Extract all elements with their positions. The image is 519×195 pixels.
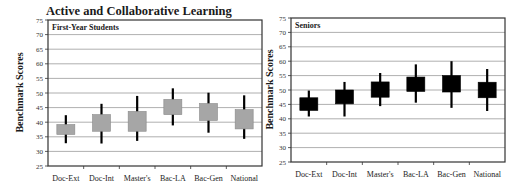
- box-bac-la: [407, 77, 425, 91]
- y-tick-label: 65: [279, 43, 287, 51]
- x-tick-label: Doc-Int: [332, 170, 358, 179]
- box-bac-gen: [443, 76, 461, 92]
- x-tick-label: Bac-Gen: [437, 170, 465, 179]
- box-doc-int: [336, 90, 354, 104]
- x-tick-label: Bac-LA: [403, 170, 429, 179]
- y-tick-label: 25: [279, 159, 287, 167]
- y-tick-label: 35: [279, 130, 287, 138]
- y-tick-label: 75: [279, 15, 287, 23]
- y-tick-label: 50: [279, 87, 287, 95]
- plot-area: 2530354045505560657075Doc-ExtDoc-IntMast…: [0, 0, 519, 195]
- y-tick-label: 40: [279, 115, 287, 123]
- x-tick-label: Doc-Ext: [295, 170, 323, 179]
- y-tick-label: 45: [279, 101, 287, 109]
- box-doc-ext: [300, 98, 318, 111]
- box-national: [478, 82, 496, 98]
- x-tick-label: National: [473, 170, 501, 179]
- y-tick-label: 70: [279, 29, 287, 37]
- y-tick-label: 30: [279, 144, 287, 152]
- y-tick-label: 55: [279, 72, 287, 80]
- box-master-s: [371, 82, 389, 97]
- y-tick-label: 60: [279, 58, 287, 66]
- x-tick-label: Master's: [367, 170, 394, 179]
